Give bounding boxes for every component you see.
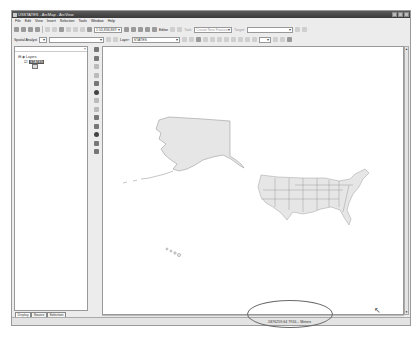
continental-us-feature <box>258 169 369 225</box>
alaska-feature <box>123 117 244 183</box>
identify-icon[interactable] <box>94 132 99 137</box>
spatial-analyst-menu[interactable]: Spatial Analyst <box>14 38 37 42</box>
measure-icon[interactable] <box>94 149 99 154</box>
paste-icon[interactable] <box>59 27 64 32</box>
select-elements-icon[interactable] <box>94 124 99 129</box>
collapse-icon[interactable]: ⊟ <box>18 55 21 60</box>
layer-visibility-checkbox[interactable]: ☑ <box>24 60 28 65</box>
task-combo[interactable]: Create New Feature <box>194 27 232 33</box>
menu-view[interactable]: View <box>35 18 43 25</box>
separator <box>42 26 43 33</box>
toc-close-icon[interactable]: × <box>84 46 86 51</box>
georef-combo[interactable] <box>259 37 271 43</box>
spatial-analyst-toolbar: Spatial Analyst Layer: STATES <box>12 35 410 44</box>
status-bar: -5876259.64 7916... Meters <box>12 317 410 325</box>
arccatalog-icon[interactable] <box>138 27 143 32</box>
model-builder-icon[interactable] <box>152 27 157 32</box>
add-data-icon[interactable] <box>87 27 92 32</box>
georef-icon-3[interactable] <box>203 37 208 42</box>
pan-icon[interactable] <box>94 81 99 86</box>
editor-toolbar-icon[interactable] <box>124 27 129 32</box>
mouse-cursor-icon: ↖ <box>374 306 381 315</box>
us-states-map <box>103 47 403 314</box>
arctoolbox-icon[interactable] <box>131 27 136 32</box>
close-button[interactable] <box>404 12 409 17</box>
georef-icon-9[interactable] <box>245 37 250 42</box>
georef-icon-8[interactable] <box>238 37 243 42</box>
copy-icon[interactable] <box>52 27 57 32</box>
layer-combo[interactable]: STATES <box>132 37 180 43</box>
map-display[interactable] <box>102 46 404 315</box>
contrast-icon[interactable] <box>113 37 118 42</box>
editor-menu[interactable]: Editor <box>159 28 168 32</box>
target-combo[interactable] <box>247 27 293 33</box>
title-bar: USSTATES - ArcMap - ArcView <box>12 11 410 18</box>
print-layout-icon[interactable] <box>287 37 292 42</box>
menu-edit[interactable]: Edit <box>25 18 31 25</box>
menu-insert[interactable]: Insert <box>47 18 56 25</box>
open-icon[interactable] <box>21 27 26 32</box>
hawaii-feature <box>166 248 181 257</box>
menu-file[interactable]: File <box>15 18 21 25</box>
georef-icon-5[interactable] <box>217 37 222 42</box>
menu-selection[interactable]: Selection <box>60 18 75 25</box>
coordinates-highlight-ellipse <box>247 300 333 328</box>
menu-help[interactable]: Help <box>108 18 115 25</box>
select-features-icon[interactable] <box>94 115 99 120</box>
maximize-button[interactable] <box>398 12 403 17</box>
full-extent-icon[interactable] <box>94 90 99 95</box>
map-vertical-scrollbar[interactable]: ▲ ▼ <box>404 46 409 315</box>
redo-icon[interactable] <box>80 27 85 32</box>
back-extent-icon[interactable] <box>94 98 99 103</box>
cut-icon[interactable] <box>45 27 50 32</box>
table-of-contents: × ⊟ ◈ Layers ☑ STATES <box>14 46 88 311</box>
scroll-up-arrow[interactable]: ▲ <box>405 47 408 51</box>
window-title: USSTATES - ArcMap - ArcView <box>18 12 74 17</box>
arcmap-app-icon <box>13 13 17 17</box>
save-icon[interactable] <box>28 27 33 32</box>
layer-symbol-swatch[interactable] <box>32 64 38 69</box>
georef-icon-4[interactable] <box>210 37 215 42</box>
histogram-icon[interactable] <box>106 37 111 42</box>
menu-tools[interactable]: Tools <box>79 18 87 25</box>
scroll-down-arrow[interactable]: ▼ <box>405 310 408 314</box>
map-scale-combo[interactable]: 1:53,836,869 <box>94 27 122 33</box>
command-line-icon[interactable] <box>145 27 150 32</box>
sketch-properties-icon[interactable] <box>302 27 307 32</box>
fixed-zoom-out-icon[interactable] <box>94 73 99 78</box>
globe-icon[interactable] <box>196 37 201 42</box>
find-icon[interactable] <box>94 141 99 146</box>
menu-bar: File Edit View Insert Selection Tools Wi… <box>12 18 410 25</box>
sa-layer-combo[interactable] <box>39 37 47 43</box>
attributes-icon[interactable] <box>295 27 300 32</box>
menu-window[interactable]: Window <box>91 18 104 25</box>
georef-icon-11[interactable] <box>273 37 278 42</box>
delete-icon[interactable] <box>66 27 71 32</box>
georef-icon-10[interactable] <box>252 37 257 42</box>
georef-icon-6[interactable] <box>224 37 229 42</box>
georef-icon-2[interactable] <box>189 37 194 42</box>
forward-extent-icon[interactable] <box>94 107 99 112</box>
task-label: Task: <box>184 28 192 32</box>
georef-icon-1[interactable] <box>182 37 187 42</box>
zoom-out-icon[interactable] <box>94 56 99 61</box>
fixed-zoom-in-icon[interactable] <box>94 64 99 69</box>
tools-toolbar <box>92 47 101 154</box>
standard-toolbar: 1:53,836,869 Editor Task: Create New Fea… <box>12 25 410 34</box>
sa-raster-combo[interactable] <box>49 37 104 43</box>
print-icon[interactable] <box>35 27 40 32</box>
zoom-in-icon[interactable] <box>94 47 99 52</box>
new-document-icon[interactable] <box>14 27 19 32</box>
edit-tool-icon[interactable] <box>170 27 175 32</box>
georef-icon-7[interactable] <box>231 37 236 42</box>
arcmap-window: USSTATES - ArcMap - ArcView File Edit Vi… <box>11 10 411 326</box>
sketch-tool-icon[interactable] <box>177 27 182 32</box>
layer-label: Layer: <box>120 38 130 42</box>
minimize-button[interactable] <box>392 12 397 17</box>
toc-header: × <box>15 47 87 52</box>
undo-icon[interactable] <box>73 27 78 32</box>
georef-icon-12[interactable] <box>280 37 285 42</box>
target-label: Target: <box>234 28 245 32</box>
